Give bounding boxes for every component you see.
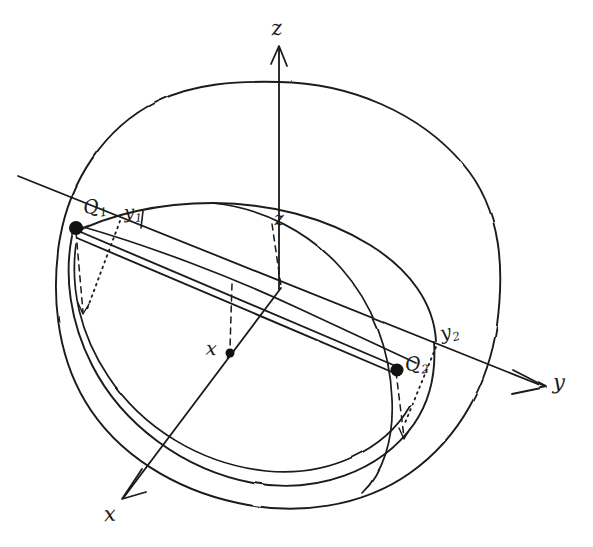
axis-label-x: x: [103, 504, 116, 526]
inner-label-y1-sub: 1: [134, 211, 142, 224]
point-q2-dot[interactable]: [391, 364, 404, 377]
inner-label-y1-base: y: [123, 201, 135, 223]
inner-label-y2: y2: [438, 320, 460, 343]
dashed-arrowheads: [78, 303, 410, 439]
band-upper-edge-curve: [80, 226, 416, 363]
point-label-q2: Q2: [404, 353, 429, 374]
sphere-diagram-figure: z y x Q1 Q2 x y1 y2 z: [0, 0, 593, 547]
point-label-q1: Q1: [82, 196, 107, 218]
point-label-q2-base: Q: [404, 352, 421, 375]
point-q1-dot[interactable]: [69, 221, 83, 235]
dashed-drop-q2: [396, 372, 404, 437]
dotted-q1-angle: [86, 221, 120, 312]
point-x-dot[interactable]: [226, 349, 235, 358]
point-label-q1-base: Q: [82, 195, 100, 219]
diagram-canvas: [0, 0, 593, 547]
inner-label-y1: y1: [123, 202, 141, 221]
dashed-construction-lines: [76, 224, 404, 437]
great-circle-upper-arc: [72, 203, 436, 341]
point-label-x: x: [205, 339, 217, 359]
y-axis-arrow: [512, 370, 546, 394]
chord-band: [76, 230, 399, 375]
dashed-drop-x: [230, 284, 232, 348]
point-label-q2-sub: 2: [421, 362, 430, 377]
axis-label-y: y: [553, 372, 566, 393]
axis-label-z: z: [270, 17, 283, 39]
inner-label-z: z: [273, 209, 284, 229]
